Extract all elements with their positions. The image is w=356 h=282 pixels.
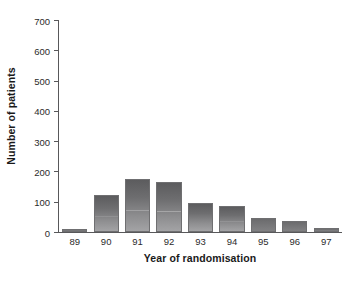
bar — [125, 179, 150, 232]
x-tick-label: 97 — [311, 236, 342, 247]
bar-slot — [188, 20, 213, 232]
bar — [94, 195, 119, 232]
x-tick-label: 90 — [90, 236, 121, 247]
y-tick-700: 700 — [54, 20, 58, 21]
y-tick-600: 600 — [54, 50, 58, 51]
x-tick-label: 94 — [216, 236, 247, 247]
y-tick-label: 700 — [34, 15, 50, 26]
y-tick-label: 0 — [45, 227, 50, 238]
bar — [156, 182, 181, 232]
y-tick-0: 0 — [54, 232, 58, 233]
x-tick-label: 96 — [279, 236, 310, 247]
bar-series — [59, 20, 342, 232]
y-tick-label: 300 — [34, 136, 50, 147]
y-tick-200: 200 — [54, 171, 58, 172]
bar-slot — [219, 20, 244, 232]
x-tick-label: 93 — [185, 236, 216, 247]
y-axis-title: Number of patients — [0, 0, 22, 232]
x-axis-title: Year of randomisation — [58, 252, 342, 264]
y-tick-label: 200 — [34, 166, 50, 177]
bar-slot — [94, 20, 119, 232]
bar-slot — [314, 20, 339, 232]
x-tick-label: 95 — [248, 236, 279, 247]
bar-slot — [62, 20, 87, 232]
bar — [62, 229, 87, 232]
y-tick-label: 100 — [34, 197, 50, 208]
bar-slot — [251, 20, 276, 232]
y-tick-400: 400 — [54, 111, 58, 112]
y-tick-100: 100 — [54, 202, 58, 203]
x-tick-label: 92 — [153, 236, 184, 247]
bar-chart: Number of patients 010020030040050060070… — [0, 0, 356, 282]
x-tick-label: 89 — [59, 236, 90, 247]
bar — [251, 218, 276, 232]
y-tick-500: 500 — [54, 81, 58, 82]
bar-slot — [282, 20, 307, 232]
bar — [188, 203, 213, 232]
bar — [219, 206, 244, 232]
y-tick-label: 500 — [34, 76, 50, 87]
plot-area: 0100200300400500600700 89909192939495969… — [58, 20, 342, 232]
y-tick-300: 300 — [54, 141, 58, 142]
bar — [314, 228, 339, 232]
bar-slot — [156, 20, 181, 232]
bar-slot — [125, 20, 150, 232]
y-tick-label: 600 — [34, 45, 50, 56]
x-tick-label: 91 — [122, 236, 153, 247]
x-axis-line — [58, 232, 342, 233]
bar — [282, 221, 307, 232]
y-tick-label: 400 — [34, 106, 50, 117]
